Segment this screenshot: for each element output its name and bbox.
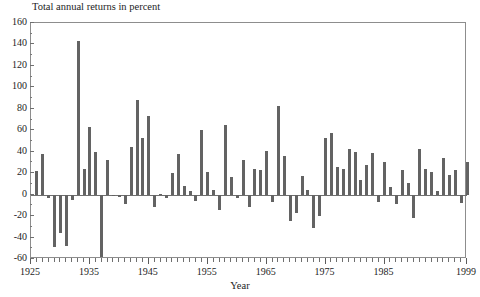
x-tick-minor bbox=[183, 258, 184, 262]
y-tick-minor bbox=[30, 140, 32, 141]
bar bbox=[124, 195, 127, 205]
y-axis: 160140120100806040200-20-40-60 bbox=[0, 0, 27, 297]
bar bbox=[253, 169, 256, 195]
x-tick-label: 1985 bbox=[374, 266, 394, 277]
x-tick-minor bbox=[166, 258, 167, 262]
x-tick-minor bbox=[112, 258, 113, 262]
x-tick-minor bbox=[295, 258, 296, 262]
x-tick-minor bbox=[413, 258, 414, 262]
y-tick-minor bbox=[30, 76, 32, 77]
y-tick-label: 0 bbox=[1, 189, 27, 199]
x-tick-minor bbox=[448, 258, 449, 262]
x-tick-minor bbox=[289, 258, 290, 262]
x-tick-minor bbox=[201, 258, 202, 262]
bar bbox=[183, 186, 186, 195]
bar bbox=[177, 154, 180, 195]
y-tick-mark bbox=[30, 151, 34, 152]
x-tick-label: 1925 bbox=[20, 266, 40, 277]
bar bbox=[436, 191, 439, 194]
bar bbox=[430, 172, 433, 195]
bar bbox=[77, 41, 80, 194]
y-tick-mark bbox=[30, 215, 34, 216]
bar bbox=[136, 100, 139, 194]
bar bbox=[277, 106, 280, 195]
x-tick-minor bbox=[219, 258, 220, 262]
y-tick-mark bbox=[30, 43, 34, 44]
y-tick-label: 140 bbox=[1, 38, 27, 48]
bar bbox=[94, 152, 97, 195]
bar bbox=[224, 125, 227, 195]
y-tick-mark bbox=[30, 258, 34, 259]
x-tick-minor bbox=[348, 258, 349, 262]
bar bbox=[71, 195, 74, 200]
bar bbox=[88, 127, 91, 195]
bar bbox=[189, 191, 192, 194]
bar bbox=[153, 195, 156, 208]
x-tick-label: 1965 bbox=[256, 266, 276, 277]
bar bbox=[171, 173, 174, 194]
x-tick-minor bbox=[224, 258, 225, 262]
x-tick-minor bbox=[71, 258, 72, 262]
y-tick-minor bbox=[30, 204, 32, 205]
bar bbox=[242, 160, 245, 194]
bar bbox=[289, 195, 292, 222]
y-tick-minor bbox=[30, 226, 32, 227]
chart-title: Total annual returns in percent bbox=[32, 1, 160, 13]
x-tick-major bbox=[325, 258, 326, 264]
bar bbox=[59, 195, 62, 234]
y-tick-mark bbox=[30, 237, 34, 238]
x-tick-minor bbox=[248, 258, 249, 262]
y-tick-minor bbox=[30, 119, 32, 120]
y-tick-minor bbox=[30, 33, 32, 34]
bar bbox=[165, 195, 168, 198]
y-tick-label: 160 bbox=[1, 17, 27, 27]
x-tick-minor bbox=[213, 258, 214, 262]
bar bbox=[147, 116, 150, 194]
bar bbox=[418, 149, 421, 195]
x-tick-minor bbox=[189, 258, 190, 262]
x-tick-minor bbox=[136, 258, 137, 262]
x-tick-minor bbox=[330, 258, 331, 262]
x-tick-minor bbox=[236, 258, 237, 262]
x-tick-minor bbox=[242, 258, 243, 262]
bar bbox=[248, 195, 251, 208]
bar bbox=[407, 183, 410, 195]
bar bbox=[330, 133, 333, 194]
bar bbox=[424, 169, 427, 195]
x-tick-minor bbox=[42, 258, 43, 262]
bar bbox=[318, 195, 321, 216]
x-tick-minor bbox=[277, 258, 278, 262]
y-tick-mark bbox=[30, 129, 34, 130]
bar bbox=[312, 195, 315, 228]
x-tick-minor bbox=[389, 258, 390, 262]
y-tick-mark bbox=[30, 108, 34, 109]
x-tick-minor bbox=[301, 258, 302, 262]
plot-area bbox=[30, 22, 466, 258]
bar bbox=[401, 170, 404, 195]
bar bbox=[41, 154, 44, 195]
bar bbox=[53, 195, 56, 248]
x-tick-minor bbox=[230, 258, 231, 262]
x-tick-minor bbox=[177, 258, 178, 262]
bar bbox=[466, 162, 469, 194]
x-tick-minor bbox=[36, 258, 37, 262]
bar bbox=[389, 187, 392, 195]
bar bbox=[159, 194, 162, 195]
x-tick-major bbox=[466, 258, 467, 264]
x-tick-minor bbox=[130, 258, 131, 262]
bar bbox=[130, 147, 133, 194]
x-tick-minor bbox=[366, 258, 367, 262]
y-tick-mark bbox=[30, 194, 34, 195]
x-tick-minor bbox=[101, 258, 102, 262]
bar bbox=[371, 153, 374, 195]
bar bbox=[212, 190, 215, 194]
x-tick-minor bbox=[160, 258, 161, 262]
bar bbox=[118, 195, 121, 197]
x-tick-major bbox=[207, 258, 208, 264]
bar bbox=[442, 158, 445, 194]
y-tick-label: -60 bbox=[1, 253, 27, 263]
bar bbox=[65, 195, 68, 246]
x-tick-minor bbox=[254, 258, 255, 262]
y-tick-label: -40 bbox=[1, 232, 27, 242]
bar bbox=[35, 171, 38, 195]
